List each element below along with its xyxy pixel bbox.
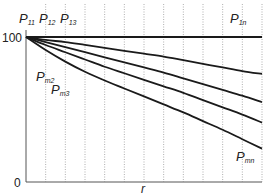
y-tick-0: 0 xyxy=(14,177,21,189)
series-line-curve-2 xyxy=(26,37,262,74)
label-p1n: P1n xyxy=(230,12,246,26)
label-pmn: Pmn xyxy=(236,150,254,164)
label-p13: P13 xyxy=(60,12,76,26)
line-chart xyxy=(0,0,266,195)
vertical-gridlines xyxy=(46,4,262,182)
y-tick-100: 100 xyxy=(2,32,22,44)
label-p12: P12 xyxy=(39,12,55,26)
label-pm3: Pm3 xyxy=(51,83,69,97)
x-axis-label: r xyxy=(141,183,145,195)
label-p11: P11 xyxy=(19,12,35,26)
